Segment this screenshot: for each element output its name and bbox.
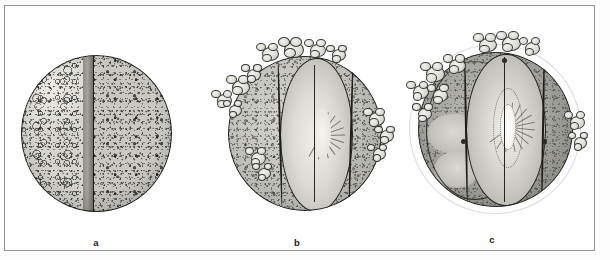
sphere-b-blob-4 bbox=[232, 80, 250, 95]
sphere-a bbox=[21, 55, 172, 212]
sphere-c-blob-5-lobe-0 bbox=[406, 81, 416, 90]
caption-a: a bbox=[81, 237, 111, 248]
sphere-b-radial-8 bbox=[321, 135, 329, 158]
sphere-c-rib-left bbox=[463, 54, 468, 204]
sphere-b-blob-1-lobe-0 bbox=[278, 37, 290, 47]
sphere-b-coarse-stipple bbox=[228, 56, 382, 211]
sphere-c-radial-2 bbox=[510, 108, 527, 127]
sphere-c-blob-2-lobe-2 bbox=[531, 37, 540, 45]
sphere-b-blob-0-lobe-2 bbox=[268, 43, 278, 52]
sphere-c-blob-3-lobe-0 bbox=[420, 62, 431, 72]
sphere-b-blob-12 bbox=[258, 168, 271, 179]
sphere-c-left-patch-upper bbox=[427, 114, 480, 154]
sphere-c-apex-nodule bbox=[502, 58, 507, 63]
sphere-c-fine-stipple bbox=[418, 52, 573, 207]
sphere-b-blob-11-lobe-2 bbox=[257, 147, 266, 155]
sphere-b-outline bbox=[228, 56, 382, 211]
sphere-c-blob-9-lobe-0 bbox=[568, 132, 576, 140]
sphere-b-radial-1 bbox=[321, 115, 336, 135]
sphere-c-blob-5-lobe-1 bbox=[413, 92, 423, 101]
sphere-a-right-hemisphere bbox=[90, 55, 172, 212]
sphere-c-blob-6-lobe-2 bbox=[439, 84, 448, 92]
sphere-c-radial-1 bbox=[510, 104, 521, 127]
sphere-c-blob-8-lobe-2 bbox=[576, 111, 585, 119]
sphere-b-axis-line bbox=[314, 65, 315, 201]
sphere-c-blob-2 bbox=[525, 42, 540, 55]
sphere-c-blob-8-lobe-1 bbox=[570, 122, 579, 130]
sphere-b-blob-0 bbox=[262, 47, 279, 61]
sphere-c bbox=[418, 52, 573, 207]
sphere-a-coarse-stipple bbox=[90, 55, 172, 212]
sphere-c-shading bbox=[418, 52, 573, 207]
sphere-b-blob-11 bbox=[251, 152, 266, 165]
sphere-b-rib-left bbox=[277, 59, 283, 208]
sphere-a-edge-shading bbox=[21, 55, 172, 212]
sphere-b-blob-7-lobe-0 bbox=[223, 100, 231, 107]
sphere-a-outline bbox=[21, 55, 172, 212]
sphere-a-left-hemisphere bbox=[21, 55, 90, 212]
sphere-c-blob-4-lobe-2 bbox=[455, 54, 465, 63]
panel-b: b bbox=[210, 40, 395, 220]
sphere-b-blob-0-lobe-1 bbox=[262, 54, 272, 63]
sphere-c-lens-core bbox=[500, 104, 517, 150]
sphere-c-outline bbox=[418, 52, 573, 207]
caption-b: b bbox=[282, 237, 312, 248]
sphere-c-radial-4 bbox=[510, 122, 534, 128]
sphere-b-blob-7 bbox=[229, 105, 242, 116]
sphere-b-blob-2-lobe-2 bbox=[316, 39, 326, 47]
sphere-c-radial-11 bbox=[496, 127, 510, 149]
sphere-b-blob-10-lobe-0 bbox=[367, 144, 375, 152]
sphere-c-blob-9 bbox=[574, 137, 587, 149]
sphere-b-blob-6-lobe-0 bbox=[241, 64, 250, 72]
sphere-c-blob-0 bbox=[479, 38, 497, 52]
sphere-b-blob-1-lobe-2 bbox=[290, 37, 302, 47]
sphere-c-blob-7-lobe-2 bbox=[424, 103, 433, 111]
sphere-c-blob-clusters bbox=[403, 36, 593, 226]
sphere-c-blob-0-lobe-0 bbox=[473, 33, 484, 42]
sphere-b-blob-2 bbox=[310, 44, 326, 57]
sphere-b-blob-10-lobe-1 bbox=[373, 154, 381, 162]
sphere-c-left-patch-lower bbox=[434, 151, 481, 188]
sphere-b-shading bbox=[228, 56, 382, 211]
sphere-b-blob-4-lobe-0 bbox=[226, 75, 237, 84]
sphere-c-lens-middle-ring bbox=[493, 88, 523, 168]
sphere-c-blob-7-lobe-1 bbox=[418, 115, 427, 123]
sphere-b-rib-right bbox=[348, 59, 354, 208]
sphere-b-blob-2-lobe-1 bbox=[310, 50, 320, 58]
sphere-c-blob-1-lobe-0 bbox=[496, 31, 507, 40]
panel-c: c bbox=[403, 36, 593, 226]
sphere-b-blob-6 bbox=[247, 69, 261, 81]
sphere-b-blob-0-lobe-0 bbox=[256, 43, 266, 52]
sphere-b-radial-3 bbox=[321, 127, 344, 136]
sphere-c-blob-1-lobe-2 bbox=[508, 31, 519, 40]
sphere-c-central-lens bbox=[466, 54, 546, 206]
sphere-c-radial-6 bbox=[510, 127, 533, 138]
sphere-b-radial-6 bbox=[321, 135, 341, 150]
sphere-b-blob-6-lobe-2 bbox=[253, 64, 262, 72]
sphere-a-vesicle-texture bbox=[21, 55, 93, 212]
sphere-b-radial-7 bbox=[321, 135, 336, 155]
figure-border-frame: a b bbox=[4, 5, 595, 251]
sphere-c-blob-0-lobe-1 bbox=[479, 45, 490, 54]
sphere-a-septum bbox=[83, 55, 94, 212]
sphere-c-blob-8-lobe-0 bbox=[564, 111, 573, 119]
sphere-b-blob-9-lobe-1 bbox=[380, 136, 389, 144]
sphere-c-blob-3-lobe-1 bbox=[426, 73, 437, 83]
sphere-c-left-arc bbox=[426, 61, 524, 199]
sphere-c-blob-7 bbox=[418, 108, 432, 120]
sphere-c-blob-6-lobe-0 bbox=[427, 84, 436, 92]
caption-c: c bbox=[477, 234, 507, 245]
sphere-b-radial-10 bbox=[309, 135, 322, 157]
sphere-b-radial-0 bbox=[321, 112, 329, 135]
sphere-b-radial-9 bbox=[318, 135, 322, 159]
sphere-a-pale-patch bbox=[24, 61, 87, 127]
sphere-c-blob-4-lobe-0 bbox=[443, 54, 453, 63]
sphere-c-radial-striations bbox=[467, 55, 545, 205]
sphere-b-blob-5 bbox=[217, 94, 232, 107]
sphere-c-blob-4-lobe-1 bbox=[449, 65, 459, 74]
sphere-b-blob-11-lobe-1 bbox=[251, 158, 260, 166]
sphere-b-blob-8-lobe-2 bbox=[375, 108, 385, 117]
sphere-a-midline bbox=[93, 55, 94, 212]
sphere-b-radial-5 bbox=[321, 134, 344, 142]
sphere-b-blob-9-lobe-2 bbox=[386, 126, 395, 134]
